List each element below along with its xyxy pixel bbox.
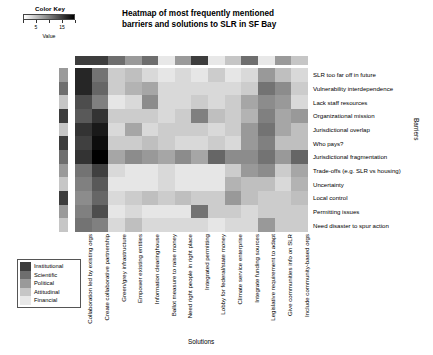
heatmap-cell <box>258 95 275 109</box>
heatmap-cell <box>142 123 159 137</box>
heatmap-cell <box>275 123 292 137</box>
heatmap-cell <box>291 164 308 178</box>
heatmap-cell <box>225 82 242 96</box>
heatmap-cell <box>142 68 159 82</box>
heatmap-cell <box>175 95 192 109</box>
heatmap-cell <box>175 68 192 82</box>
column-label-slot: Climate service enterprise <box>225 234 242 334</box>
heatmap-cell <box>225 218 242 232</box>
heatmap-cell <box>125 109 142 123</box>
heatmap-cell <box>258 205 275 219</box>
heatmap-cell <box>158 164 175 178</box>
heatmap-cell <box>241 191 258 205</box>
column-label-slot: Give communities info on SLR <box>275 234 292 334</box>
heatmap-cell <box>291 191 308 205</box>
column-label-slot: Green/grey infrastructure <box>108 234 125 334</box>
heatmap-cell <box>125 164 142 178</box>
category-legend-label: Institutional <box>34 262 63 271</box>
color-key-tick <box>36 20 37 23</box>
heatmap-cell <box>208 95 225 109</box>
heatmap-cell <box>241 109 258 123</box>
color-key-tick-labels: 515 <box>23 24 75 31</box>
heatmap-cell <box>158 95 175 109</box>
heatmap-cell <box>191 164 208 178</box>
heatmap-cell <box>108 123 125 137</box>
row-label: Uncertainty <box>313 177 425 191</box>
heatmap-cell <box>158 109 175 123</box>
heatmap-cell <box>158 205 175 219</box>
heatmap-cell <box>225 68 242 82</box>
heatmap-cell <box>158 177 175 191</box>
heatmap-cell <box>108 109 125 123</box>
color-key-tick-label: 5 <box>35 24 38 30</box>
heatmap-cell <box>158 123 175 137</box>
column-label-slot: Need right people in right place <box>175 234 192 334</box>
heatmap-cell <box>225 177 242 191</box>
heatmap-cell <box>258 164 275 178</box>
heatmap-cell <box>291 150 308 164</box>
heatmap-cell <box>92 109 109 123</box>
heatmap-cell <box>75 95 92 109</box>
heatmap-cell <box>275 150 292 164</box>
heatmap-cell <box>241 123 258 137</box>
column-label-slot: Empower existing entities <box>125 234 142 334</box>
heatmap-cell <box>92 68 109 82</box>
heatmap-cell <box>75 82 92 96</box>
heatmap-cell <box>225 164 242 178</box>
row-category-strip <box>59 68 68 232</box>
column-label: Include community-based orgs <box>303 234 310 317</box>
heatmap-cell <box>175 109 192 123</box>
row-category-cell <box>59 177 68 191</box>
row-label: Trade-offs (e.g. SLR vs housing) <box>313 164 425 178</box>
heatmap-cell <box>75 191 92 205</box>
heatmap-cell <box>275 205 292 219</box>
category-legend-swatch <box>20 262 31 271</box>
column-category-cell <box>92 56 109 65</box>
heatmap-grid <box>75 68 308 232</box>
heatmap-cell <box>208 150 225 164</box>
heatmap-cell <box>158 82 175 96</box>
heatmap-cell <box>225 95 242 109</box>
heatmap-cell <box>175 136 192 150</box>
heatmap-cell <box>258 191 275 205</box>
column-label-slot: Integrate funding sources <box>241 234 258 334</box>
row-category-cell <box>59 164 68 178</box>
color-key-axis-label: Value <box>23 33 75 39</box>
cols-axis-label: Solutions <box>188 338 214 345</box>
heatmap-cell <box>191 205 208 219</box>
heatmap-row <box>75 218 308 232</box>
column-category-cell <box>175 56 192 65</box>
row-category-cell <box>59 150 68 164</box>
heatmap-cell <box>92 164 109 178</box>
heatmap-cell <box>208 191 225 205</box>
heatmap-cell <box>208 82 225 96</box>
heatmap-cell <box>142 136 159 150</box>
heatmap-cell <box>158 218 175 232</box>
row-category-cell <box>59 82 68 96</box>
heatmap-cell <box>191 68 208 82</box>
heatmap-cell <box>191 177 208 191</box>
heatmap-cell <box>108 95 125 109</box>
heatmap-cell <box>92 191 109 205</box>
heatmap-cell <box>108 82 125 96</box>
heatmap-cell <box>275 136 292 150</box>
heatmap-cell <box>142 82 159 96</box>
heatmap-cell <box>225 205 242 219</box>
heatmap-cell <box>108 136 125 150</box>
heatmap-row <box>75 68 308 82</box>
heatmap-cell <box>275 95 292 109</box>
heatmap-cell <box>92 205 109 219</box>
color-key-tick <box>49 20 50 23</box>
heatmap-cell <box>208 205 225 219</box>
row-category-cell <box>59 191 68 205</box>
column-category-cell <box>225 56 242 65</box>
column-category-cell <box>258 56 275 65</box>
heatmap-cell <box>241 150 258 164</box>
heatmap-cell <box>258 109 275 123</box>
heatmap-cell <box>191 150 208 164</box>
heatmap-cell <box>275 218 292 232</box>
heatmap-cell <box>291 123 308 137</box>
heatmap-cell <box>275 177 292 191</box>
heatmap-row <box>75 164 308 178</box>
heatmap-row <box>75 109 308 123</box>
